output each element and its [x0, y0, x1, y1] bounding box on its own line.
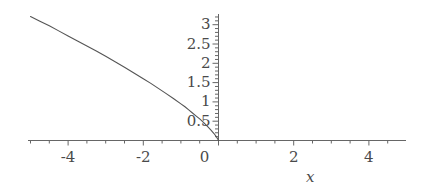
y-tick-label: 3 — [201, 17, 211, 32]
x-tick-label: -4 — [48, 150, 88, 165]
x-axis-label: x — [306, 170, 314, 185]
x-axis-ticks — [31, 141, 388, 146]
plot-figure: 0.511.522.53 -4-2024 x — [0, 0, 426, 193]
y-tick-label: 1.5 — [187, 75, 211, 90]
x-tick-label: 0 — [185, 150, 225, 165]
x-tick-label: 2 — [274, 150, 314, 165]
y-tick-label: 2 — [201, 56, 211, 71]
y-tick-label: 2.5 — [187, 37, 211, 52]
y-axis-ticks — [213, 17, 219, 137]
y-tick-label: 1 — [201, 94, 211, 109]
x-tick-label: -2 — [123, 150, 163, 165]
x-tick-label: 4 — [349, 150, 389, 165]
y-tick-label: 0.5 — [187, 114, 211, 129]
